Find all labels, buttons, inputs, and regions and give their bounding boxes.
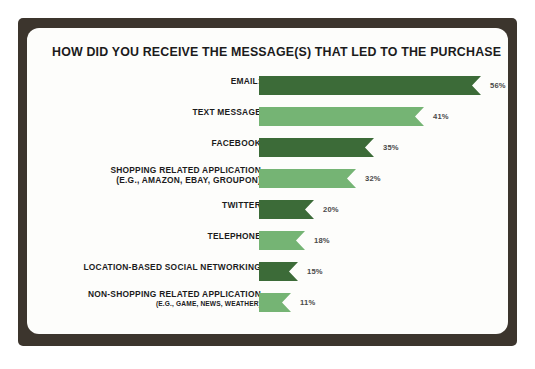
bar-value-label: 32%	[365, 174, 381, 183]
bar-value-label: 20%	[323, 205, 339, 214]
bar-category-label-main: EMAIL:	[31, 76, 261, 86]
bar-chart-plot-area: EMAIL:56%TEXT MESSAGE41%FACEBOOK35%SHOPP…	[27, 76, 508, 324]
bar-shape	[259, 231, 305, 250]
page-title: HOW DID YOU RECEIVE THE MESSAGE(S) THAT …	[52, 45, 501, 59]
bar-shape	[259, 76, 481, 95]
bar-shape	[259, 107, 424, 126]
bar-category-label: TWITTER	[31, 200, 261, 210]
bar-category-label-main: TWITTER	[31, 200, 261, 210]
bar-row: SHOPPING RELATED APPLICATION(E.G., AMAZO…	[27, 169, 508, 200]
bar-category-label: EMAIL:	[31, 76, 261, 86]
bar-row: TEXT MESSAGE41%	[27, 107, 508, 138]
bar-and-value: 11%	[259, 293, 315, 312]
bar-and-value: 18%	[259, 231, 330, 250]
bar-category-label: TEXT MESSAGE	[31, 107, 261, 117]
bar-value-label: 41%	[433, 112, 449, 121]
bar-category-label: SHOPPING RELATED APPLICATION(E.G., AMAZO…	[31, 165, 261, 186]
bar-category-label-main: FACEBOOK	[31, 138, 261, 148]
bar-shape	[259, 293, 291, 312]
bar-value-label: 11%	[300, 298, 315, 307]
bar-value-label: 15%	[307, 267, 323, 276]
bar-row: NON-SHOPPING RELATED APPLICATION(E.G., G…	[27, 293, 508, 324]
bar-value-label: 18%	[314, 236, 330, 245]
bar-category-label-main: SHOPPING RELATED APPLICATION	[31, 165, 261, 175]
bar-value-label: 35%	[383, 143, 399, 152]
bar-row: TWITTER20%	[27, 200, 508, 231]
bar-and-value: 20%	[259, 200, 339, 219]
bar-shape	[259, 138, 374, 157]
bar-category-label-main: TELEPHONE	[31, 231, 261, 241]
chart-card: HOW DID YOU RECEIVE THE MESSAGE(S) THAT …	[27, 28, 508, 334]
bar-row: TELEPHONE18%	[27, 231, 508, 262]
bar-shape	[259, 200, 314, 219]
bar-value-label: 56%	[490, 81, 506, 90]
bar-category-label: TELEPHONE	[31, 231, 261, 241]
bar-category-label-main: TEXT MESSAGE	[31, 107, 261, 117]
bar-and-value: 35%	[259, 138, 399, 157]
bar-shape	[259, 262, 298, 281]
bar-and-value: 41%	[259, 107, 449, 126]
bar-shape	[259, 169, 356, 188]
bar-category-label-main: LOCATION-BASED SOCIAL NETWORKING	[31, 262, 261, 272]
bar-category-label: NON-SHOPPING RELATED APPLICATION(E.G., G…	[31, 289, 261, 308]
bar-and-value: 32%	[259, 169, 381, 188]
bar-category-label: FACEBOOK	[31, 138, 261, 148]
bar-category-label-main: NON-SHOPPING RELATED APPLICATION	[31, 289, 261, 299]
bar-row: EMAIL:56%	[27, 76, 508, 107]
infographic-frame: HOW DID YOU RECEIVE THE MESSAGE(S) THAT …	[18, 18, 517, 346]
bar-and-value: 15%	[259, 262, 323, 281]
bar-category-label-sub: (E.G., GAME, NEWS, WEATHER)	[31, 299, 261, 308]
bar-category-label: LOCATION-BASED SOCIAL NETWORKING	[31, 262, 261, 272]
bar-category-label-sub: (E.G., AMAZON, EBAY, GROUPON)	[31, 175, 261, 185]
bar-and-value: 56%	[259, 76, 506, 95]
